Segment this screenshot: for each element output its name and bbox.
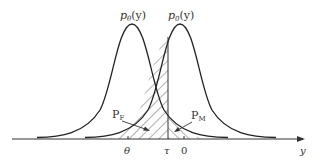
label-pf: PF (112, 108, 124, 122)
pf-region (110, 35, 168, 139)
tick-label-tau: τ (164, 145, 170, 156)
axis-arrow-icon (297, 136, 305, 142)
tick-label-theta: θ (124, 145, 130, 156)
detection-diagram: pθ(y) p0(y) PF PM θ τ 0 y (0, 0, 329, 164)
tick-label-zero: 0 (181, 145, 187, 156)
label-p-zero: p0(y) (168, 9, 194, 23)
label-pm: PM (191, 109, 206, 123)
label-p-theta: pθ(y) (120, 9, 146, 23)
axis-label-y: y (299, 145, 306, 156)
